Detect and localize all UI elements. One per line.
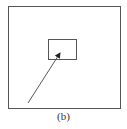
outer-box	[9, 7, 121, 109]
figure-caption: (b)	[0, 110, 127, 122]
inner-box	[49, 40, 77, 60]
arrow-icon	[28, 53, 60, 103]
